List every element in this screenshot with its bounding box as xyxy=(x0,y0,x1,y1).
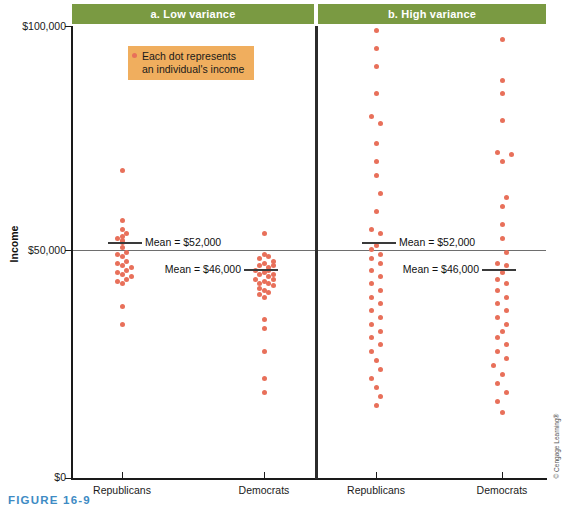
panel-header-low-variance: a. Low variance xyxy=(72,4,314,24)
data-point xyxy=(500,204,505,209)
data-point xyxy=(120,304,125,309)
x-tick-mark xyxy=(502,472,503,479)
data-point xyxy=(500,118,505,123)
mean-line xyxy=(244,269,278,272)
data-point xyxy=(504,250,509,255)
data-point xyxy=(500,78,505,83)
mean-line xyxy=(108,242,142,245)
data-point xyxy=(504,356,509,361)
x-axis-line xyxy=(71,478,547,480)
data-point xyxy=(378,315,383,320)
data-point xyxy=(120,168,125,173)
mean-label: Mean = $46,000 xyxy=(403,263,479,275)
data-point xyxy=(271,263,276,268)
data-point xyxy=(378,261,383,266)
data-point xyxy=(271,277,276,282)
x-tick-label-democrats: Democrats xyxy=(442,484,562,496)
x-tick-label-republicans: Republicans xyxy=(316,484,436,496)
data-point xyxy=(124,268,129,273)
x-tick-mark xyxy=(264,472,265,479)
data-point xyxy=(120,245,125,250)
data-point xyxy=(120,254,125,259)
y-tick-mark-50000 xyxy=(65,250,72,251)
data-point xyxy=(378,329,383,334)
data-point xyxy=(374,28,379,33)
mean-label: Mean = $46,000 xyxy=(165,263,241,275)
data-point xyxy=(500,236,505,241)
data-point xyxy=(495,277,500,282)
data-point xyxy=(129,265,134,270)
x-tick-mark xyxy=(376,472,377,479)
data-point xyxy=(374,91,379,96)
data-point xyxy=(262,349,267,354)
legend-box: Each dot represents an individual's inco… xyxy=(128,46,254,80)
data-point xyxy=(500,329,505,334)
data-point xyxy=(374,46,379,51)
data-point xyxy=(500,222,505,227)
data-point xyxy=(369,322,374,327)
y-axis-line xyxy=(71,26,73,479)
data-point xyxy=(120,263,125,268)
mean-label: Mean = $52,000 xyxy=(399,236,475,248)
data-point xyxy=(374,141,379,146)
mean-line xyxy=(482,269,516,272)
y-tick-label-100000: $100,000 xyxy=(2,20,66,32)
data-point xyxy=(124,250,129,255)
data-point xyxy=(500,372,505,377)
data-point xyxy=(495,261,500,266)
data-point xyxy=(500,410,505,415)
data-point xyxy=(271,283,276,288)
data-point xyxy=(369,349,374,354)
data-point xyxy=(120,281,125,286)
data-point xyxy=(262,376,267,381)
data-point xyxy=(369,227,374,232)
data-point xyxy=(369,295,374,300)
copyright-credit: © Cengage Learning® xyxy=(553,379,560,479)
data-point xyxy=(500,159,505,164)
mean-label: Mean = $52,000 xyxy=(145,236,221,248)
data-point xyxy=(495,288,500,293)
mean-line xyxy=(362,242,396,245)
data-point xyxy=(374,209,379,214)
data-point xyxy=(374,159,379,164)
data-point xyxy=(266,254,271,259)
plot-area xyxy=(72,26,546,478)
y-tick-mark-100000 xyxy=(65,26,72,27)
data-point xyxy=(504,390,509,395)
data-point xyxy=(120,218,125,223)
panel-divider xyxy=(315,26,318,479)
x-tick-label-democrats: Democrats xyxy=(204,484,324,496)
data-point xyxy=(500,91,505,96)
data-point xyxy=(495,381,500,386)
data-point xyxy=(374,385,379,390)
data-point xyxy=(369,114,374,119)
data-point xyxy=(262,317,267,322)
data-point xyxy=(120,272,125,277)
y-tick-label-0: $0 xyxy=(2,471,66,483)
data-point xyxy=(262,295,267,300)
data-point xyxy=(374,173,379,178)
data-point xyxy=(120,322,125,327)
data-point xyxy=(491,363,496,368)
data-point xyxy=(374,358,379,363)
gridline-50000 xyxy=(72,250,546,251)
x-tick-mark xyxy=(122,472,123,479)
data-point xyxy=(378,191,383,196)
data-point xyxy=(262,326,267,331)
y-tick-label-50000: $50,000 xyxy=(2,244,66,256)
legend-line-2: an individual's income xyxy=(142,63,244,75)
data-point xyxy=(369,268,374,273)
data-point xyxy=(500,37,505,42)
data-point xyxy=(495,399,500,404)
data-point xyxy=(504,295,509,300)
data-point xyxy=(124,259,129,264)
data-point xyxy=(495,315,500,320)
data-point xyxy=(378,288,383,293)
data-point xyxy=(374,403,379,408)
y-tick-mark-0 xyxy=(65,478,72,479)
data-point xyxy=(374,64,379,69)
legend-text: Each dot represents an individual's inco… xyxy=(142,50,244,76)
data-point xyxy=(129,274,134,279)
data-point xyxy=(495,349,500,354)
